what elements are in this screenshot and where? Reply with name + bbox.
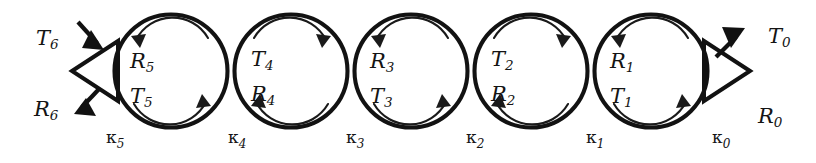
label-circle-3-top: T2 xyxy=(491,47,514,73)
label-circle-1-bottom: R4 xyxy=(250,82,275,108)
diagram-canvas: T6 R6 T0 R0 R5 T5 T4 xyxy=(0,0,816,163)
output-arrow-t0 xyxy=(716,27,745,57)
label-t6: T6 xyxy=(36,26,59,52)
output-port-triangle xyxy=(704,41,750,101)
label-kappa-3: κ3 xyxy=(346,127,365,151)
label-kappa-0: κ0 xyxy=(712,127,731,151)
top-arc-arrowhead-kappa-4 xyxy=(316,34,331,48)
scattering-chain-diagram: T6 R6 T0 R0 R5 T5 T4 xyxy=(0,0,816,163)
label-circle-0-bottom: T5 xyxy=(130,84,153,110)
label-circle-4-bottom: T1 xyxy=(610,84,633,110)
label-circle-1-top: T4 xyxy=(251,47,274,73)
label-circle-4-top: R1 xyxy=(609,49,634,75)
label-r0: R0 xyxy=(757,104,783,130)
label-t0: T0 xyxy=(768,24,791,50)
label-kappa-2: κ2 xyxy=(466,127,484,151)
output-arrow-r6 xyxy=(74,88,100,116)
bottom-arc-arrowhead-kappa-5 xyxy=(196,94,211,108)
circle-kappa-4 xyxy=(235,15,348,128)
top-arc-arrowhead-kappa-3 xyxy=(371,34,386,48)
bottom-arc-arrowhead-kappa-3 xyxy=(436,94,451,108)
label-circle-0-top: R5 xyxy=(129,49,154,75)
bottom-arc-arrowhead-kappa-1 xyxy=(676,94,691,108)
curvature-labels: κ5 κ4 κ3 κ2 κ1 κ0 xyxy=(106,127,731,151)
label-r6: R6 xyxy=(33,97,59,123)
label-kappa-1: κ1 xyxy=(586,127,604,151)
top-arc-arrowhead-kappa-1 xyxy=(611,34,626,48)
rotation-arrows-kappa-2 xyxy=(491,18,571,125)
label-circle-3-bottom: R2 xyxy=(490,82,515,108)
label-circle-2-bottom: T3 xyxy=(370,84,393,110)
top-arc-arrowhead-kappa-2 xyxy=(556,34,571,48)
right-port-group xyxy=(704,27,750,101)
label-kappa-4: κ4 xyxy=(228,127,246,151)
top-arc-arrowhead-kappa-5 xyxy=(131,34,146,48)
label-circle-2-top: R3 xyxy=(369,49,394,75)
circle-kappa-2 xyxy=(475,15,588,128)
label-kappa-5: κ5 xyxy=(106,127,124,151)
input-arrow-t6 xyxy=(78,22,104,50)
rotation-arrows-kappa-4 xyxy=(251,18,331,125)
left-port-group xyxy=(72,22,118,116)
